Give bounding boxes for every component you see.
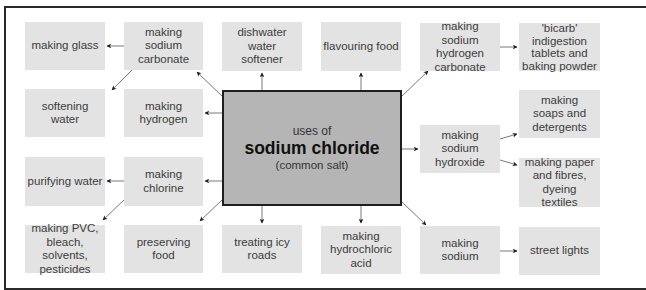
box-label: making sodium hydrogen carbonate (422, 20, 498, 74)
box-label: making PVC, bleach, solvents, pesticides (27, 222, 103, 276)
box-making-sodium-carbonate: making sodium carbonate (124, 22, 203, 70)
box-label: making paper and fibres, dyeing textiles (525, 156, 595, 210)
box-label: street lights (530, 244, 589, 258)
box-label: dishwater water softener (233, 26, 291, 67)
box-label: purifying water (28, 175, 103, 189)
box-purifying-water: purifying water (25, 157, 105, 206)
box-label: softening water (27, 100, 103, 127)
box-making-hydrogen: making hydrogen (124, 89, 203, 137)
center-line-uses-of: uses of (293, 124, 332, 138)
box-label: treating icy roads (224, 236, 300, 263)
box-making-sodium-hydrogen-carbonate: making sodium hydrogen carbonate (420, 23, 500, 71)
box-softening-water: softening water (25, 89, 105, 137)
box-bicarb: 'bicarb' indigestion tablets and baking … (519, 23, 600, 71)
box-making-chlorine: making chlorine (124, 157, 203, 206)
box-making-hydrochloric-acid: making hydrochloric acid (321, 226, 401, 274)
box-label: making hydrochloric acid (323, 230, 399, 271)
center-subtitle: (common salt) (276, 158, 349, 172)
box-dishwater-water-softener: dishwater water softener (222, 22, 302, 71)
box-street-lights: street lights (519, 227, 600, 275)
box-label: preserving food (126, 236, 201, 263)
center-title: sodium chloride (244, 138, 379, 158)
box-treating-icy-roads: treating icy roads (222, 225, 302, 273)
box-label: making sodium (422, 237, 498, 264)
box-label: making sodium hydroxide (422, 129, 498, 170)
box-making-soaps: making soaps and detergents (519, 90, 600, 138)
box-preserving-food: preserving food (124, 225, 203, 273)
box-label: flavouring food (323, 40, 398, 54)
box-making-sodium-hydroxide: making sodium hydroxide (420, 125, 500, 173)
box-flavouring-food: flavouring food (321, 22, 401, 71)
box-making-paper: making paper and fibres, dyeing textiles (519, 158, 600, 207)
box-label: making soaps and detergents (525, 94, 595, 135)
central-node-sodium-chloride: uses of sodium chloride (common salt) (222, 90, 402, 206)
box-label: 'bicarb' indigestion tablets and baking … (521, 22, 598, 72)
box-label: making sodium carbonate (134, 26, 194, 67)
box-making-sodium: making sodium (420, 226, 500, 274)
box-making-glass: making glass (25, 22, 105, 70)
box-making-pvc: making PVC, bleach, solvents, pesticides (25, 225, 105, 273)
box-label: making glass (31, 39, 98, 53)
box-label: making chlorine (126, 168, 201, 195)
box-label: making hydrogen (126, 100, 201, 127)
